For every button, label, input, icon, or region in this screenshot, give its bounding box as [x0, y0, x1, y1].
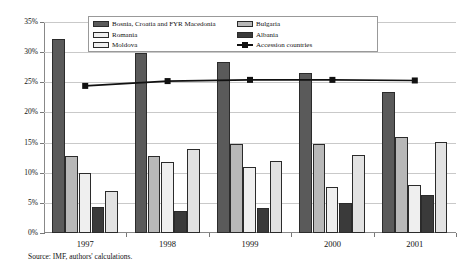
bar — [382, 92, 395, 233]
y-axis-tick-label: 20% — [6, 108, 38, 116]
bar — [135, 53, 148, 233]
bar — [105, 191, 118, 233]
legend-label: Albania — [256, 31, 278, 39]
x-axis-tick-mark — [374, 233, 375, 237]
legend-label: Accession countries — [256, 41, 312, 49]
legend-item: Bulgaria — [237, 19, 312, 30]
bar — [313, 144, 326, 233]
legend-label: Bosnia, Croatia and FYR Macedonia — [112, 20, 216, 28]
bar — [270, 161, 283, 233]
bar — [65, 156, 78, 233]
gridline — [44, 52, 456, 53]
legend-label: Moldova — [112, 41, 137, 49]
gridline — [44, 82, 456, 83]
bar — [161, 162, 174, 233]
bar — [174, 211, 187, 233]
bar — [326, 187, 339, 233]
legend-label: Romania — [112, 31, 137, 39]
bar — [52, 39, 65, 233]
bar — [395, 137, 408, 233]
legend-swatch-icon — [93, 32, 109, 38]
y-axis-tick-label: 15% — [6, 139, 38, 147]
x-axis-tick-mark — [209, 233, 210, 237]
bar — [217, 62, 230, 233]
bar — [148, 156, 161, 233]
y-axis-tick-label: 30% — [6, 48, 38, 56]
legend-column-right: BulgariaAlbaniaAccession countries — [237, 19, 312, 51]
x-axis-tick-label: 2001 — [374, 240, 456, 249]
y-axis-tick-label: 10% — [6, 169, 38, 177]
y-axis-tick-label: 5% — [6, 199, 38, 207]
x-axis-tick-label: 1999 — [209, 240, 291, 249]
x-axis-tick-label: 1998 — [126, 240, 208, 249]
bar — [230, 144, 243, 233]
legend-item: Moldova — [93, 40, 216, 51]
legend-item: Bosnia, Croatia and FYR Macedonia — [93, 19, 216, 30]
legend-swatch-icon — [93, 42, 109, 48]
bar — [339, 203, 352, 233]
x-axis-tick-mark — [291, 233, 292, 237]
x-axis-tick-label: 1997 — [44, 240, 126, 249]
bar — [92, 207, 105, 233]
bar — [352, 155, 365, 233]
bar — [79, 173, 92, 233]
legend-item: Albania — [237, 30, 312, 41]
x-axis-tick-mark — [456, 233, 457, 237]
chart-legend: Bosnia, Croatia and FYR MacedoniaRomania… — [88, 16, 378, 52]
bar — [187, 149, 200, 233]
chart-container: 0%5%10%15%20%25%30%35% 19971998199920002… — [0, 0, 468, 273]
legend-swatch-icon — [93, 21, 109, 27]
legend-line-marker-icon — [237, 41, 253, 49]
y-axis-tick-label: 25% — [6, 78, 38, 86]
y-axis-tick-label: 0% — [6, 229, 38, 237]
x-axis-tick-label: 2000 — [291, 240, 373, 249]
bar — [257, 208, 270, 233]
bar — [299, 73, 312, 233]
bar — [408, 185, 421, 233]
x-axis-tick-mark — [126, 233, 127, 237]
y-axis-tick-mark — [40, 233, 45, 234]
legend-label: Bulgaria — [256, 20, 280, 28]
bar — [243, 167, 256, 233]
legend-swatch-icon — [237, 32, 253, 38]
bar — [435, 142, 448, 233]
bar — [421, 195, 434, 233]
source-note: Source: IMF, authors' calculations. — [28, 252, 132, 261]
legend-item: Accession countries — [237, 40, 312, 51]
y-axis-tick-label: 35% — [6, 18, 38, 26]
legend-item: Romania — [93, 30, 216, 41]
legend-swatch-icon — [237, 21, 253, 27]
legend-column-left: Bosnia, Croatia and FYR MacedoniaRomania… — [93, 19, 216, 51]
